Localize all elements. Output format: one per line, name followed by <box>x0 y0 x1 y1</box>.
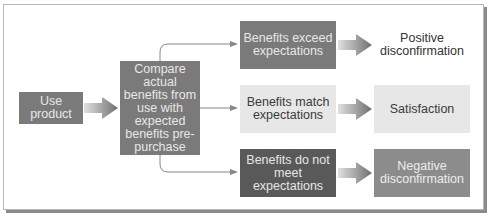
arrow-icon <box>338 162 374 184</box>
condition-box-not-meet: Benefits do not meet expectations <box>240 149 336 197</box>
arrow-icon <box>338 98 374 120</box>
use-product-box: Use product <box>19 92 83 124</box>
arrow-icon <box>84 97 120 119</box>
condition-box-exceed: Benefits exceed expectations <box>240 21 336 69</box>
outcome-satisfaction: Satisfaction <box>374 85 470 133</box>
branch-connectors <box>150 40 240 180</box>
outcome-positive: Positive disconfirmation <box>374 28 470 62</box>
arrow-icon <box>338 34 374 56</box>
condition-box-match: Benefits match expectations <box>240 85 336 133</box>
outcome-negative: Negative disconfirmation <box>374 149 470 197</box>
